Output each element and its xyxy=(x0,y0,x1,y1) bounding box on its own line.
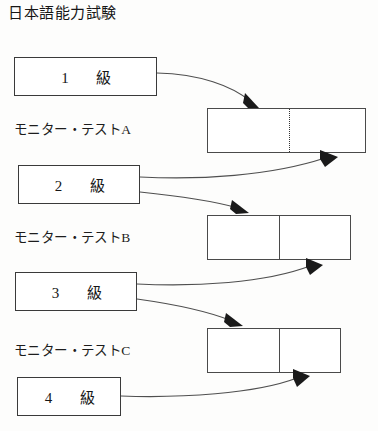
grade-box-2-text: 2 級 xyxy=(54,174,105,195)
arrow-grade2-to-testa xyxy=(140,150,338,178)
grade-box-2-suffix: 級 xyxy=(90,174,105,195)
grade-box-4-suffix: 級 xyxy=(80,386,95,407)
grade-box-3-suffix: 級 xyxy=(87,281,102,302)
grade-box-1-suffix: 級 xyxy=(96,66,111,87)
grade-box-1[interactable]: 1 級 xyxy=(14,57,157,96)
grade-box-1-text: 1 級 xyxy=(60,66,111,87)
test-label-a: モニター・テストA xyxy=(14,123,131,137)
test-label-c: モニター・テストC xyxy=(14,344,131,358)
test-box-a-divider xyxy=(289,109,290,152)
test-box-b-divider xyxy=(279,216,280,259)
page-title: 日本語能力試験 xyxy=(8,4,117,22)
grade-box-4[interactable]: 4 級 xyxy=(17,377,121,416)
grade-box-3-text: 3 級 xyxy=(51,281,102,302)
test-box-b[interactable] xyxy=(207,215,351,260)
arrow-grade3-to-testb xyxy=(137,258,323,285)
grade-box-2-number: 2 xyxy=(54,178,64,195)
test-box-c-divider xyxy=(279,329,280,372)
test-box-a[interactable] xyxy=(207,108,366,153)
grade-box-2[interactable]: 2 級 xyxy=(18,165,140,204)
grade-box-1-number: 1 xyxy=(60,70,70,87)
grade-box-3-number: 3 xyxy=(51,285,61,302)
arrow-grade2-to-testb xyxy=(140,192,249,214)
grade-box-3[interactable]: 3 級 xyxy=(15,272,137,311)
arrow-grade1-to-testa xyxy=(157,73,259,108)
grade-box-4-text: 4 級 xyxy=(44,386,95,407)
arrow-grade4-to-testc xyxy=(121,369,310,396)
grade-box-4-number: 4 xyxy=(44,390,54,407)
arrow-grade3-to-testc xyxy=(137,299,243,327)
test-label-b: モニター・テストB xyxy=(14,231,131,245)
test-box-c[interactable] xyxy=(207,328,341,373)
diagram-canvas: 日本語能力試験 1 級 2 級 3 級 4 級 モニター・テストA モニター・テ… xyxy=(0,0,378,431)
